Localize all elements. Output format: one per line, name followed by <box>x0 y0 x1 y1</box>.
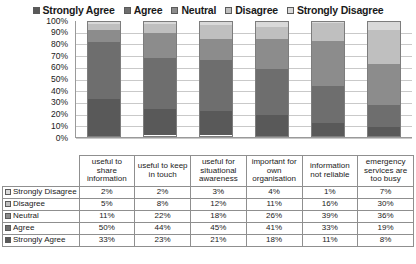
table-cell-value: 11% <box>79 210 135 222</box>
row-header-content: Strongly Agree <box>5 236 77 245</box>
bar-segment[interactable] <box>200 60 233 111</box>
row-header-content: Disagree <box>5 200 77 209</box>
table-cell-value: 44% <box>135 222 191 234</box>
plot-area <box>75 21 412 138</box>
bar-segment[interactable] <box>368 105 401 127</box>
bar-slot <box>356 21 412 137</box>
table-column-header: emergency services are too busy <box>358 156 414 187</box>
bar-slot <box>300 21 356 137</box>
bar-segment[interactable] <box>256 115 289 136</box>
bar-segment[interactable] <box>256 39 289 69</box>
bar-slot <box>188 21 244 137</box>
table-row: Agree50%44%45%41%33%19% <box>3 222 414 234</box>
stacked-bar[interactable] <box>87 21 122 137</box>
table-header: useful to share informationuseful to kee… <box>3 156 414 187</box>
bar-segment[interactable] <box>88 30 121 42</box>
bar-series-container <box>76 21 412 137</box>
table-cell-value: 4% <box>246 187 302 199</box>
y-axis-tick-label: 10% <box>51 122 68 131</box>
table-body: Strongly Disagree2%2%3%4%1%7%Disagree5%8… <box>3 187 414 247</box>
bar-segment[interactable] <box>312 86 345 124</box>
bar-segment[interactable] <box>200 25 233 39</box>
row-header-content: Agree <box>5 224 77 233</box>
bar-segment[interactable] <box>144 24 177 33</box>
table-cell-value: 22% <box>135 210 191 222</box>
bar-segment[interactable] <box>368 127 401 136</box>
series-label: Neutral <box>13 212 39 221</box>
bar-segment[interactable] <box>88 99 121 136</box>
legend-label: Agree <box>134 5 163 16</box>
series-swatch-icon <box>5 237 11 243</box>
bar-slot <box>244 21 300 137</box>
bar-segment[interactable] <box>312 123 345 136</box>
y-axis-tick-label: 90% <box>51 28 68 37</box>
bar-segment[interactable] <box>200 39 233 60</box>
plot-wrapper: 0%10%20%30%40%50%60%70%80%90%100% <box>0 18 416 155</box>
table-cell-value: 7% <box>358 187 414 199</box>
legend-label: Strongly Disagree <box>297 5 383 16</box>
stacked-bar-chart: Strongly AgreeAgreeNeutralDisagreeStrong… <box>0 0 416 264</box>
table-cell-value: 18% <box>246 234 302 246</box>
table-cell-value: 30% <box>358 198 414 210</box>
series-label: Strongly Agree <box>13 236 65 245</box>
table-cell-value: 19% <box>358 222 414 234</box>
row-header-content: Neutral <box>5 212 77 221</box>
bar-segment[interactable] <box>312 41 345 85</box>
table-column-header: useful to keep in touch <box>135 156 191 187</box>
stacked-bar[interactable] <box>367 21 402 137</box>
table-cell-value: 2% <box>135 187 191 199</box>
table-column-header: information not reliable <box>302 156 358 187</box>
legend-swatch-icon <box>124 7 131 14</box>
bar-segment[interactable] <box>256 27 289 40</box>
stacked-bar[interactable] <box>255 21 290 137</box>
table-column-header: useful for situational awareness <box>191 156 247 187</box>
table-cell-value: 3% <box>191 187 247 199</box>
table-cell-value: 36% <box>358 210 414 222</box>
bar-segment[interactable] <box>312 23 345 41</box>
table-row-header: Strongly Agree <box>3 234 80 246</box>
y-axis-tick-label: 80% <box>51 40 68 49</box>
legend-item[interactable]: Strongly Agree <box>33 5 115 16</box>
y-axis-tick-label: 100% <box>46 17 68 26</box>
table-row-header: Disagree <box>3 198 80 210</box>
stacked-bar[interactable] <box>311 21 346 137</box>
stacked-bar[interactable] <box>143 21 178 137</box>
y-axis-tick-label: 30% <box>51 98 68 107</box>
legend-swatch-icon <box>287 7 294 14</box>
table-cell-value: 12% <box>191 198 247 210</box>
y-axis-tick-label: 20% <box>51 110 68 119</box>
bar-segment[interactable] <box>144 109 177 135</box>
bar-segment[interactable] <box>368 22 401 30</box>
y-axis-tick-label: 50% <box>51 75 68 84</box>
legend-item[interactable]: Strongly Disagree <box>287 5 383 16</box>
bar-segment[interactable] <box>256 69 289 116</box>
bar-segment[interactable] <box>200 111 233 135</box>
bar-segment[interactable] <box>144 58 177 108</box>
table-cell-value: 21% <box>191 234 247 246</box>
series-swatch-icon <box>5 189 11 195</box>
stacked-bar[interactable] <box>199 21 234 137</box>
bar-slot <box>132 21 188 137</box>
series-swatch-icon <box>5 213 11 219</box>
legend-swatch-icon <box>225 7 232 14</box>
bar-segment[interactable] <box>368 30 401 64</box>
y-axis-tick-label: 0% <box>56 134 68 143</box>
gridline <box>76 138 412 139</box>
legend-label: Strongly Agree <box>43 5 115 16</box>
legend-item[interactable]: Disagree <box>225 5 278 16</box>
legend-item[interactable]: Agree <box>124 5 163 16</box>
table-row: Strongly Disagree2%2%3%4%1%7% <box>3 187 414 199</box>
bar-segment[interactable] <box>88 42 121 98</box>
table-column-header: useful to share information <box>79 156 135 187</box>
bar-slot <box>76 21 132 137</box>
data-table: useful to share informationuseful to kee… <box>2 155 414 247</box>
table-column-header: important for own organisation <box>246 156 302 187</box>
bar-segment[interactable] <box>144 33 177 58</box>
table-cell-value: 1% <box>302 187 358 199</box>
table-cell-value: 5% <box>79 198 135 210</box>
table-cell-value: 11% <box>246 198 302 210</box>
legend-item[interactable]: Neutral <box>171 5 216 16</box>
bar-segment[interactable] <box>368 64 401 105</box>
row-header-content: Strongly Disagree <box>5 188 77 197</box>
y-axis-tick-label: 60% <box>51 63 68 72</box>
